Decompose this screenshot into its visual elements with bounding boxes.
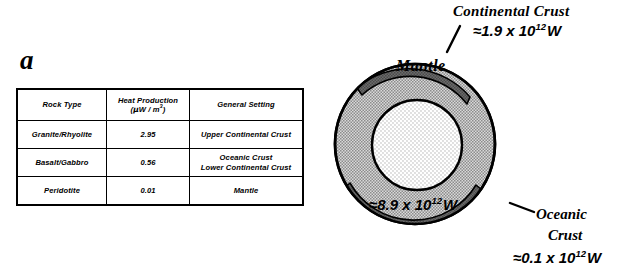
cell-rock-type: Basalt/Gabbro — [17, 149, 107, 177]
table-row: Granite/Rhyolite 2.95 Upper Continental … — [17, 121, 303, 149]
oceanic-crust-label-line1: Oceanic — [536, 207, 587, 223]
mantle-value-unit: W — [443, 196, 457, 213]
table-body: Granite/Rhyolite 2.95 Upper Continental … — [17, 121, 303, 206]
panel-a-table-section: a Rock Type Heat Production (μW / m3) Ge… — [0, 0, 310, 277]
cell-general-setting-line1: Oceanic Crust — [190, 153, 302, 162]
cell-general-setting: Oceanic Crust Lower Continental Crust — [190, 149, 304, 177]
column-header-heat-production: Heat Production (μW / m3) — [107, 89, 190, 121]
table-row: Peridotite 0.01 Mantle — [17, 177, 303, 206]
mantle-value-exponent: 12 — [431, 195, 442, 206]
core-region — [372, 100, 462, 190]
column-header-heat-production-units: (μW / m3) — [107, 105, 189, 114]
cell-heat-production: 0.56 — [107, 149, 190, 177]
continental-crust-value-mantissa: ≈1.9 x 10 — [473, 22, 535, 39]
units-close-paren: ) — [163, 105, 166, 114]
table-header-row: Rock Type Heat Production (μW / m3) Gene… — [17, 89, 303, 121]
continental-crust-label: Continental Crust — [453, 4, 569, 20]
oceanic-crust-value-exponent: 12 — [575, 248, 586, 259]
panel-b-earth-diagram-section: b Continental Crust ≈1.9 x 1012W Mantle … — [310, 0, 620, 277]
cell-general-setting-line1: Mantle — [190, 186, 302, 195]
units-w-per-m: W / m — [139, 105, 160, 114]
column-header-rock-type-label: Rock Type — [18, 100, 106, 109]
column-header-rock-type: Rock Type — [17, 89, 107, 121]
table-row: Basalt/Gabbro 0.56 Oceanic Crust Lower C… — [17, 149, 303, 177]
oceanic-crust-value-mantissa: ≈0.1 x 10 — [513, 249, 575, 266]
cell-general-setting-line1: Upper Continental Crust — [190, 130, 302, 139]
continental-crust-value-exponent: 12 — [535, 21, 546, 32]
oceanic-crust-value-unit: W — [587, 249, 601, 266]
mantle-value: ≈8.9 x 1012W — [369, 197, 457, 213]
continental-crust-value-unit: W — [547, 22, 561, 39]
table-header: Rock Type Heat Production (μW / m3) Gene… — [17, 89, 303, 121]
column-header-heat-production-label: Heat Production — [107, 96, 189, 105]
column-header-general-setting-label: General Setting — [190, 100, 302, 109]
cell-heat-production: 0.01 — [107, 177, 190, 206]
column-header-general-setting: General Setting — [190, 89, 304, 121]
oceanic-crust-label-line2: Crust — [548, 228, 582, 244]
cell-heat-production: 2.95 — [107, 121, 190, 149]
mantle-label: Mantle — [396, 58, 446, 75]
rock-heat-production-table: Rock Type Heat Production (μW / m3) Gene… — [16, 88, 304, 206]
continental-crust-leader-line — [447, 26, 460, 52]
cell-general-setting-line2: Lower Continental Crust — [190, 163, 302, 172]
cell-rock-type: Granite/Rhyolite — [17, 121, 107, 149]
oceanic-crust-value: ≈0.1 x 1012W — [513, 250, 601, 266]
cell-general-setting: Upper Continental Crust — [190, 121, 304, 149]
mantle-value-mantissa: ≈8.9 x 10 — [369, 196, 431, 213]
panel-a-letter: a — [20, 47, 34, 74]
cell-rock-type: Peridotite — [17, 177, 107, 206]
continental-crust-value: ≈1.9 x 1012W — [473, 23, 561, 39]
oceanic-crust-leader-line — [510, 203, 534, 212]
cell-general-setting: Mantle — [190, 177, 304, 206]
